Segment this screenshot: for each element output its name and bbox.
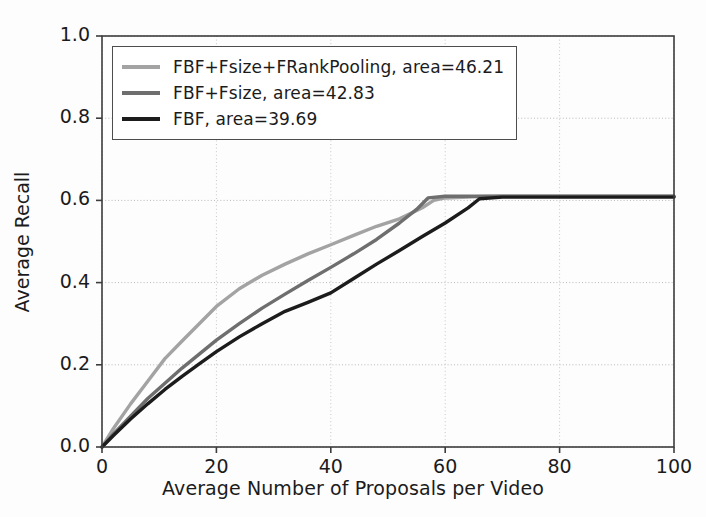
legend-swatch-frankpooling [122,65,160,69]
chart-figure: 0.00.20.40.60.81.0 020406080100 Average … [0,0,706,517]
legend-swatch-fsize [122,91,160,95]
y-tick-label: 0.0 [38,434,90,456]
y-tick-label: 0.6 [38,187,90,209]
legend-label-fsize: FBF+Fsize, area=42.83 [173,83,375,103]
y-tick-label: 0.4 [38,270,90,292]
x-axis-label: Average Number of Proposals per Video [0,477,706,499]
curve-series-group [102,196,674,447]
legend-label-frankpooling: FBF+Fsize+FRankPooling, area=46.21 [173,57,504,77]
x-tick-label: 0 [72,455,132,477]
x-tick-label: 40 [301,455,361,477]
y-tick-label: 0.8 [38,105,90,127]
legend-swatch-fbf [122,117,160,121]
legend-item: FBF+Fsize+FRankPooling, area=46.21 [122,54,504,80]
chart-legend: FBF+Fsize+FRankPooling, area=46.21 FBF+F… [112,46,517,140]
legend-item: FBF+Fsize, area=42.83 [122,80,504,106]
x-tick-label: 100 [644,455,704,477]
legend-label-fbf: FBF, area=39.69 [173,109,317,129]
y-axis-label: Average Recall [11,171,33,312]
x-tick-label: 20 [186,455,246,477]
y-tick-label: 0.2 [38,352,90,374]
legend-item: FBF, area=39.69 [122,106,504,132]
y-axis-label-container: Average Recall [8,0,36,483]
x-tick-label: 60 [415,455,475,477]
x-tick-label: 80 [530,455,590,477]
y-tick-label: 1.0 [38,23,90,45]
